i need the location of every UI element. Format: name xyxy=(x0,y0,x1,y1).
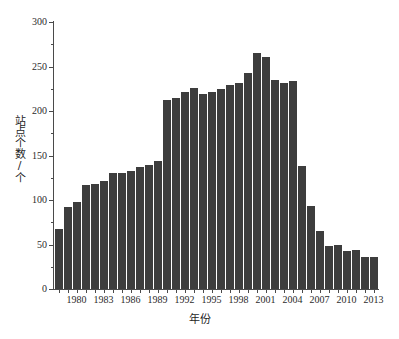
x-axis-tick xyxy=(77,289,78,293)
x-axis-tick xyxy=(365,289,366,293)
x-axis-tick-label: 1998 xyxy=(229,295,249,305)
y-axis-tick-label: 250 xyxy=(32,62,47,72)
bar xyxy=(198,94,207,289)
x-axis-tick xyxy=(329,289,330,293)
plot-area xyxy=(54,22,378,289)
bar xyxy=(288,81,297,289)
x-axis-tick xyxy=(284,289,285,293)
x-axis-tick xyxy=(68,289,69,293)
x-axis-tick xyxy=(140,289,141,293)
bar xyxy=(279,83,288,289)
x-axis-tick xyxy=(104,289,105,293)
bar xyxy=(99,181,108,289)
x-axis-tick xyxy=(302,289,303,293)
bar xyxy=(315,231,324,289)
x-axis-tick-label: 1986 xyxy=(121,295,141,305)
x-axis-tick xyxy=(176,289,177,293)
x-axis-tick xyxy=(221,289,222,293)
y-axis-tick: 100 xyxy=(0,200,54,201)
y-axis-tick: 0 xyxy=(0,289,54,290)
y-axis-tick-label: 300 xyxy=(32,17,47,27)
x-axis-tick xyxy=(266,289,267,293)
y-axis-tick-label: 100 xyxy=(32,195,47,205)
bar xyxy=(90,184,99,289)
bar xyxy=(126,171,135,289)
bar xyxy=(351,250,360,289)
x-axis-tick xyxy=(194,289,195,293)
bar xyxy=(261,57,270,289)
x-axis-tick-label: 1995 xyxy=(202,295,222,305)
y-axis-tick: 300 xyxy=(0,22,54,23)
bar xyxy=(135,167,144,289)
bar xyxy=(153,161,162,289)
x-axis-tick xyxy=(185,289,186,293)
y-axis-minor-tick xyxy=(0,267,54,268)
bar xyxy=(324,246,333,289)
x-axis-tick xyxy=(275,289,276,293)
bar xyxy=(234,83,243,289)
y-axis-minor-tick xyxy=(0,178,54,179)
x-axis-tick xyxy=(248,289,249,293)
y-axis-tick-label: 0 xyxy=(42,284,47,294)
x-axis-line xyxy=(53,289,379,290)
bar xyxy=(333,245,342,289)
bar xyxy=(180,92,189,289)
bar xyxy=(243,73,252,289)
x-axis-tick-label: 2013 xyxy=(364,295,384,305)
y-axis-title: 站点个数/个 xyxy=(14,115,25,183)
x-axis-tick-label: 1989 xyxy=(148,295,168,305)
bar xyxy=(63,207,72,289)
x-axis-tick xyxy=(230,289,231,293)
chart-figure: 050100150200250300 198019831986198919921… xyxy=(0,0,399,339)
tick-mark xyxy=(49,289,54,290)
x-axis-tick xyxy=(293,289,294,293)
bar xyxy=(342,251,351,289)
x-axis-tick xyxy=(203,289,204,293)
x-axis-tick xyxy=(149,289,150,293)
x-axis-tick xyxy=(167,289,168,293)
bar xyxy=(306,206,315,289)
bar xyxy=(297,166,306,289)
x-axis-tick xyxy=(86,289,87,293)
y-axis-tick: 250 xyxy=(0,67,54,68)
x-axis-tick xyxy=(113,289,114,293)
x-axis-tick xyxy=(320,289,321,293)
bar xyxy=(81,185,90,289)
bar xyxy=(144,165,153,289)
y-axis-tick: 200 xyxy=(0,111,54,112)
x-axis-tick-label: 1983 xyxy=(94,295,114,305)
y-axis-tick: 50 xyxy=(0,245,54,246)
x-axis-tick xyxy=(95,289,96,293)
x-axis-tick xyxy=(356,289,357,293)
x-axis-tick-label: 2010 xyxy=(337,295,357,305)
bar xyxy=(54,229,63,289)
x-axis-tick xyxy=(338,289,339,293)
bar xyxy=(225,85,234,289)
bar xyxy=(252,53,261,289)
y-axis-minor-tick xyxy=(0,89,54,90)
x-axis-tick-label: 1980 xyxy=(67,295,87,305)
x-axis-tick xyxy=(374,289,375,293)
bar xyxy=(162,100,171,289)
bar xyxy=(216,89,225,289)
bar xyxy=(369,257,378,289)
y-axis-minor-tick xyxy=(0,133,54,134)
y-axis-tick-label: 150 xyxy=(32,151,47,161)
x-axis-tick xyxy=(158,289,159,293)
x-axis-tick xyxy=(257,289,258,293)
x-axis-tick-label: 2004 xyxy=(283,295,303,305)
x-axis-title: 年份 xyxy=(0,310,399,326)
bar xyxy=(189,88,198,289)
x-axis-tick xyxy=(122,289,123,293)
y-axis-tick-label: 200 xyxy=(32,106,47,116)
bar xyxy=(72,202,81,289)
bar xyxy=(171,98,180,289)
x-axis-tick xyxy=(131,289,132,293)
x-axis-tick-label: 2001 xyxy=(256,295,276,305)
x-axis-tick xyxy=(239,289,240,293)
bar xyxy=(207,92,216,289)
x-axis-tick xyxy=(212,289,213,293)
x-axis-tick xyxy=(347,289,348,293)
bar xyxy=(117,173,126,289)
bar xyxy=(360,257,369,289)
